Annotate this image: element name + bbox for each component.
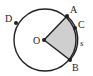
circle-diagram: O A C B D s — [0, 0, 93, 76]
point-o — [42, 38, 46, 42]
label-a: A — [70, 4, 78, 15]
label-c: C — [78, 19, 85, 30]
label-o: O — [33, 35, 40, 46]
point-a — [65, 14, 69, 18]
arc-label-s: s — [80, 38, 84, 48]
point-d — [14, 21, 18, 25]
label-d: D — [5, 13, 12, 24]
label-b: B — [72, 62, 79, 73]
point-c — [73, 26, 77, 30]
